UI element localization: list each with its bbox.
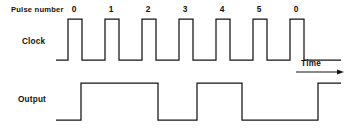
waveform-canvas	[0, 0, 351, 133]
pulse-number-tick: 2	[146, 5, 151, 13]
pulse-number-tick: 1	[109, 5, 114, 13]
time-axis-label: Time	[301, 60, 321, 68]
clock-axis-label: Clock	[22, 38, 45, 46]
pulse-number-tick: 3	[183, 5, 188, 13]
output-axis-label: Output	[18, 96, 46, 104]
output-waveform	[56, 83, 341, 120]
pulse-number-tick: 0	[72, 5, 77, 13]
pulse-number-tick: 4	[220, 5, 225, 13]
timing-diagram-figure: Pulse number Clock Output Time 0123450	[0, 0, 351, 133]
pulse-number-tick: 5	[257, 5, 262, 13]
clock-waveform	[56, 19, 341, 60]
time-arrow-head	[337, 69, 344, 74]
pulse-number-header: Pulse number	[11, 6, 64, 14]
pulse-number-tick: 0	[294, 5, 299, 13]
